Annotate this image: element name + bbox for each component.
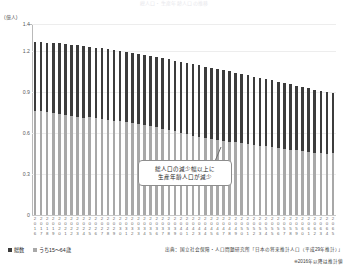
bar-group <box>58 24 61 215</box>
bar-group <box>265 24 268 215</box>
bar-group <box>82 24 85 215</box>
bar-group <box>289 24 292 215</box>
y-tick-label: 1.2 <box>4 48 30 54</box>
bar-group <box>222 24 225 215</box>
estimate-note: ※2016年以降は推計値 <box>294 258 343 264</box>
chart-legend: 総数 うち15～64歳 <box>8 246 71 253</box>
bar-working-age <box>277 148 280 215</box>
bar-series-container <box>32 24 336 215</box>
y-tick-label: 1.4 <box>4 21 30 27</box>
annotation-line-1: 総人口の減少幅以上に <box>155 165 215 173</box>
y-tick: 1.4 <box>0 21 30 27</box>
y-tick-label: 0.9 <box>4 89 30 95</box>
legend-label-total: 総数 <box>14 246 24 253</box>
bar-group <box>295 24 298 215</box>
bar-group <box>52 24 55 215</box>
bar-group <box>34 24 37 215</box>
x-tick-label: 2052 <box>251 216 257 236</box>
bar-working-age <box>76 117 79 215</box>
bar-working-age <box>113 121 116 215</box>
bar-group <box>307 24 310 215</box>
bar-working-age <box>52 113 55 215</box>
bar-group <box>210 24 213 215</box>
bar-working-age <box>58 114 61 215</box>
bar-group <box>326 24 329 215</box>
y-tick: 0 <box>0 212 30 218</box>
bar-group <box>320 24 323 215</box>
bar-working-age <box>125 122 128 215</box>
bar-group <box>174 24 177 215</box>
bar-working-age <box>320 153 323 215</box>
bar-group <box>240 24 243 215</box>
x-tick-label: 2044 <box>202 216 208 236</box>
bar-working-age <box>253 145 256 215</box>
bar-working-age <box>131 123 134 215</box>
bar-group <box>131 24 134 215</box>
source-attribution: 出典：国立社会保障・人口問題研究所「日本の将来推計人口（平成29年推計）」 <box>165 246 343 252</box>
y-axis-unit-label: (億人) <box>4 13 17 20</box>
bar-working-age <box>247 144 250 215</box>
annotation-callout: 総人口の減少幅以上に 生産年齢人口が減少 <box>138 160 232 186</box>
bar-group <box>332 24 335 215</box>
bar-working-age <box>313 153 316 215</box>
bar-working-age <box>283 149 286 215</box>
bar-working-age <box>82 118 85 215</box>
bar-group <box>113 24 116 215</box>
bar-group <box>313 24 316 215</box>
bar-group <box>277 24 280 215</box>
y-tick: 1.2 <box>0 48 30 54</box>
annotation-line-2: 生産年齢人口が減少 <box>158 173 212 181</box>
legend-label-working-age: うち15～64歳 <box>39 246 71 253</box>
bar-working-age <box>271 147 274 215</box>
bar-group <box>216 24 219 215</box>
x-tick-label: 2036 <box>154 216 160 236</box>
bar-working-age <box>95 118 98 215</box>
chart-title: 総人口・生産年齢人口の推移 <box>0 0 348 9</box>
bar-group <box>107 24 110 215</box>
bar-working-age <box>332 153 335 215</box>
bar-group <box>247 24 250 215</box>
legend-swatch-total-icon <box>8 248 12 252</box>
bar-working-age <box>64 115 67 215</box>
bar-group <box>253 24 256 215</box>
bar-working-age <box>289 150 292 215</box>
bar-group <box>70 24 73 215</box>
y-tick: 0.3 <box>0 171 30 177</box>
bar-group <box>161 24 164 215</box>
callout-pointer-icon <box>208 146 224 162</box>
bar-working-age <box>265 146 268 215</box>
bar-group <box>186 24 189 215</box>
legend-item-total: 総数 <box>8 246 24 253</box>
bar-group <box>95 24 98 215</box>
bar-group <box>204 24 207 215</box>
bar-group <box>149 24 152 215</box>
bar-group <box>88 24 91 215</box>
bar-group <box>46 24 49 215</box>
legend-swatch-working-age-icon <box>33 248 37 252</box>
bar-group <box>40 24 43 215</box>
bar-group <box>301 24 304 215</box>
bar-group <box>76 24 79 215</box>
x-tick-label: 2061 <box>306 216 312 236</box>
bar-working-age <box>307 152 310 215</box>
x-tick-label: 2019 <box>50 216 56 236</box>
x-tick-label: 2065 <box>330 216 336 236</box>
bar-working-age <box>88 117 91 215</box>
bar-group <box>143 24 146 215</box>
bar-working-age <box>301 151 304 215</box>
y-tick: 0.6 <box>0 130 30 136</box>
bar-working-age <box>101 119 104 215</box>
bar-group <box>192 24 195 215</box>
bar-group <box>228 24 231 215</box>
y-tick-label: 0 <box>4 212 30 218</box>
bar-group <box>137 24 140 215</box>
bar-group <box>180 24 183 215</box>
bar-group <box>259 24 262 215</box>
x-axis-tick-labels: 2016201720182019202020212022202320242025… <box>32 216 336 242</box>
x-tick-label: 2027 <box>99 216 105 236</box>
bar-group <box>283 24 286 215</box>
bar-group <box>101 24 104 215</box>
bar-working-age <box>34 111 37 215</box>
bar-working-age <box>107 120 110 215</box>
bar-group <box>119 24 122 215</box>
